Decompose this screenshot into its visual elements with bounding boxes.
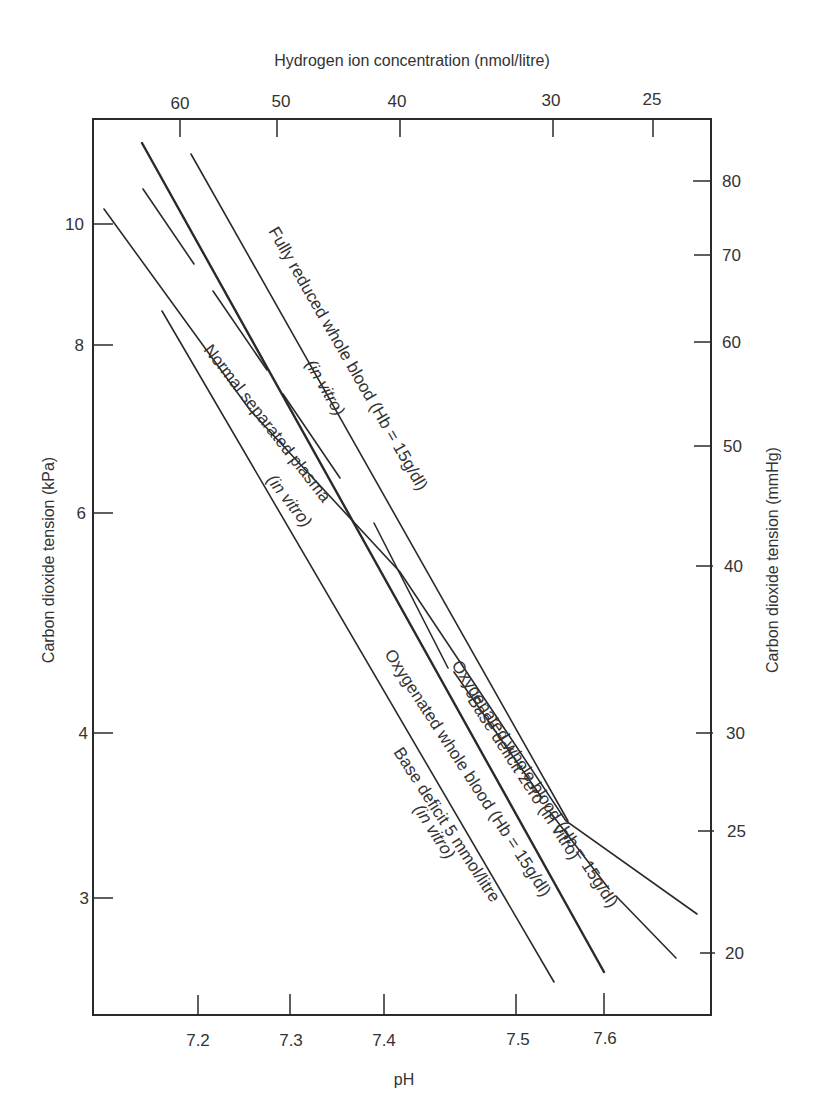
left-tick-8: 8	[75, 336, 84, 355]
right-tick-25: 25	[727, 822, 746, 841]
top-tick-40: 40	[388, 92, 407, 111]
curve-oxygenated-bd-zero	[142, 143, 604, 972]
bottom-tick-7.3: 7.3	[279, 1031, 303, 1050]
right-tick-70: 70	[722, 246, 741, 265]
top-tick-30: 30	[542, 91, 561, 110]
bottom-axis-title: pH	[394, 1071, 414, 1088]
plot-frame	[93, 119, 711, 1015]
right-tick-60: 60	[722, 333, 741, 352]
right-tick-20: 20	[725, 944, 744, 963]
bottom-tick-7.4: 7.4	[372, 1031, 396, 1050]
left-tick-10: 10	[65, 215, 84, 234]
bottom-tick-7.2: 7.2	[186, 1031, 210, 1050]
left-axis-title: Carbon dioxide tension (kPa)	[40, 457, 57, 663]
bottom-tick-7.6: 7.6	[593, 1029, 617, 1048]
curve-normal-plasma	[104, 209, 697, 914]
curve-fully-reduced	[191, 154, 568, 821]
top-ticks	[180, 119, 653, 137]
right-tick-50: 50	[723, 437, 742, 456]
right-tick-40: 40	[724, 557, 743, 576]
top-tick-60: 60	[171, 94, 190, 113]
left-tick-3: 3	[80, 889, 89, 908]
bottom-ticks	[198, 993, 604, 1015]
right-tick-30: 30	[726, 724, 745, 743]
top-tick-50: 50	[272, 92, 291, 111]
label-oxy-five-sub: Base deficit 5 mmol/litre	[390, 744, 504, 906]
right-tick-80: 80	[722, 172, 741, 191]
bottom-tick-7.5: 7.5	[506, 1030, 530, 1049]
top-axis-title: Hydrogen ion concentration (nmol/litre)	[274, 52, 550, 69]
left-tick-6: 6	[77, 504, 86, 523]
left-ticks	[93, 224, 113, 898]
left-tick-4: 4	[79, 724, 88, 743]
top-tick-25: 25	[643, 90, 662, 109]
right-axis-title: Carbon dioxide tension (mmHg)	[764, 447, 781, 673]
chart: Hydrogen ion concentration (nmol/litre) …	[0, 0, 821, 1120]
